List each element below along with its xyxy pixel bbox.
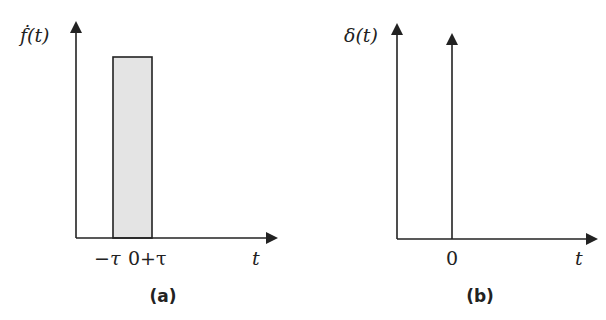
impulse-arrowhead xyxy=(446,33,458,45)
tick-label-zero-plus-tau: 0+τ xyxy=(128,247,167,269)
x-axis-arrowhead-a xyxy=(266,232,278,244)
caption-a: (a) xyxy=(149,286,176,306)
panel-b: δ(t) t 0 (b) xyxy=(344,23,598,306)
x-axis-label-a: t xyxy=(252,247,260,269)
caption-b: (b) xyxy=(466,286,494,306)
rectangular-pulse xyxy=(113,57,152,238)
y-axis-arrowhead-a xyxy=(70,21,82,33)
y-axis-arrowhead-b xyxy=(391,23,403,35)
tick-label-minus-tau: −τ xyxy=(94,247,121,269)
y-axis-label-a: ḟ(t) xyxy=(18,24,50,46)
y-axis-label-b: δ(t) xyxy=(344,24,378,46)
x-axis-arrowhead-b xyxy=(586,233,598,245)
panel-a: ḟ(t) t −τ 0+τ (a) xyxy=(18,21,278,306)
figure: ḟ(t) t −τ 0+τ (a) δ(t) t 0 (b) xyxy=(0,0,606,320)
tick-label-zero: 0 xyxy=(446,247,458,269)
x-axis-label-b: t xyxy=(575,247,583,269)
